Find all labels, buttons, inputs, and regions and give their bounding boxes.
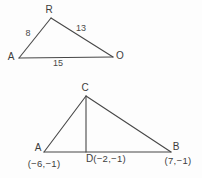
side-AC-line	[44, 96, 86, 152]
vertex-label-O: O	[116, 51, 124, 61]
side-length-AR: 8	[25, 29, 30, 38]
side-AO-line	[19, 57, 113, 58]
coord-label-D: (−2,−1)	[93, 153, 126, 164]
coord-label-B: (7,−1)	[165, 156, 192, 166]
coord-label-A: (−6,−1)	[28, 159, 61, 169]
vertex-label-R: R	[45, 5, 52, 15]
foot-label-group: D (−2,−1)	[86, 153, 126, 164]
vertex-label-C: C	[81, 83, 88, 93]
side-CB-line	[86, 96, 171, 152]
vertex-label-B: B	[173, 142, 180, 152]
vertex-label-A-top: A	[8, 52, 15, 62]
side-length-RO: 13	[76, 24, 86, 33]
side-length-AO: 15	[53, 59, 63, 68]
geometry-diagram: R A O 8 13 15 C A B D (−2,−1) (−6,−1) (7…	[0, 0, 202, 178]
foot-label-D: D	[86, 153, 93, 164]
vertex-label-A-bottom: A	[35, 143, 42, 153]
side-AR-line	[19, 18, 51, 58]
